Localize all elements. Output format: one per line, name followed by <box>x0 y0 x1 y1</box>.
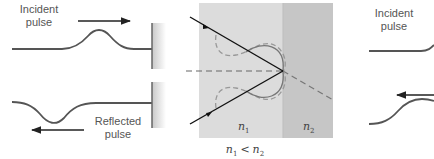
center-panel: n1 n2 n1<n2 <box>186 3 333 158</box>
reflection-diagram: Incident pulse Reflected pulse n1 <box>0 0 434 159</box>
right-panel: Incident pulse <box>369 7 434 124</box>
right-incident-label-line2: pulse <box>381 20 407 32</box>
medium-n2 <box>283 3 333 138</box>
incident-label-line2: pulse <box>26 16 52 28</box>
fixed-wall-top <box>152 23 166 69</box>
incident-pulse-wave <box>12 30 152 49</box>
left-panel: Incident pulse Reflected pulse <box>12 3 166 140</box>
reflected-label-line2: pulse <box>105 128 131 140</box>
index-relation: n1<n2 <box>226 143 264 158</box>
right-reflected-pulse-wave <box>369 99 434 124</box>
reflected-label-line1: Reflected <box>95 115 141 127</box>
right-incident-label-line1: Incident <box>375 7 414 19</box>
right-incident-pulse-wave <box>369 45 434 51</box>
fixed-wall-bottom <box>152 82 166 128</box>
incident-label-line1: Incident <box>20 3 59 15</box>
